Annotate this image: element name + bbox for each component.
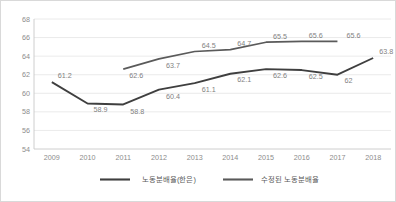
data-label: 58.9 [94, 105, 108, 114]
y-tick-label: 64 [22, 52, 30, 61]
data-label: 60.4 [166, 92, 180, 101]
y-tick-label: 60 [22, 89, 30, 98]
data-label: 58.8 [130, 107, 144, 116]
data-label: 62.1 [237, 75, 251, 84]
data-label: 65.5 [273, 32, 287, 41]
x-tick-label-2015: 2015 [258, 153, 274, 162]
data-label: 65.6 [309, 31, 323, 40]
data-label: 63.8 [379, 47, 393, 56]
y-tick-label: 66 [22, 33, 30, 42]
x-tick-label-2014: 2014 [222, 153, 238, 162]
data-label: 61.2 [58, 71, 72, 80]
data-label: 62.6 [129, 71, 143, 80]
x-tick-label-2017: 2017 [329, 153, 345, 162]
data-label: 62 [344, 76, 352, 85]
x-tick-label-2010: 2010 [80, 153, 96, 162]
y-tick-label: 54 [22, 145, 30, 154]
x-tick-label-2018: 2018 [365, 153, 381, 162]
x-tick-label-2013: 2013 [187, 153, 203, 162]
legend-label-1: 노동분배율(한은) [142, 175, 196, 184]
x-tick-label-2012: 2012 [151, 153, 167, 162]
x-tick-label-2009: 2009 [44, 153, 60, 162]
x-tick-label-2016: 2016 [294, 153, 310, 162]
data-label: 62.6 [273, 71, 287, 80]
y-tick-label: 62 [22, 70, 30, 79]
data-label: 65.6 [346, 31, 360, 40]
legend-label-2: 수정된 노동분배율 [261, 175, 319, 184]
y-tick-label: 68 [22, 15, 30, 24]
data-label: 64.7 [237, 39, 251, 48]
data-label: 61.1 [202, 85, 216, 94]
data-label: 63.7 [166, 61, 180, 70]
chart-container: 5456586062646668200920102011201220132014… [0, 0, 396, 202]
line-chart: 5456586062646668200920102011201220132014… [1, 1, 396, 202]
x-tick-label-2011: 2011 [116, 153, 131, 162]
y-tick-label: 56 [22, 126, 30, 135]
y-tick-label: 58 [22, 107, 30, 116]
series-line-2 [123, 41, 337, 69]
series-line-1 [52, 58, 373, 104]
data-label: 64.5 [202, 41, 216, 50]
data-label: 62.5 [309, 72, 323, 81]
